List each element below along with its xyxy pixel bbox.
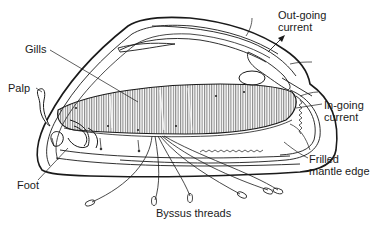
label-foot: Foot bbox=[17, 179, 39, 191]
label-palp: Palp bbox=[8, 82, 30, 94]
label-frilled-line1: Frilled bbox=[309, 153, 370, 165]
label-ingoing-line1: In-going bbox=[324, 99, 364, 111]
label-gills: Gills bbox=[25, 43, 46, 55]
label-frilled-mantle-edge: Frilled mantle edge bbox=[309, 153, 370, 177]
byssus-threads bbox=[84, 136, 283, 207]
label-outgoing-line2: current bbox=[278, 21, 326, 33]
mussel-illustration bbox=[0, 0, 379, 225]
gills-shape bbox=[58, 84, 297, 137]
mussel-diagram: Gills Palp Foot Byssus threads Out-going… bbox=[0, 0, 379, 225]
label-ingoing-line2: current bbox=[324, 111, 364, 123]
label-outgoing-current: Out-going current bbox=[278, 9, 326, 33]
label-ingoing-current: In-going current bbox=[324, 99, 364, 123]
current-arrows bbox=[52, 138, 140, 152]
outgoing-arrow bbox=[268, 35, 285, 52]
label-outgoing-line1: Out-going bbox=[278, 9, 326, 21]
label-byssus-threads: Byssus threads bbox=[156, 207, 231, 219]
label-frilled-line2: mantle edge bbox=[309, 165, 370, 177]
